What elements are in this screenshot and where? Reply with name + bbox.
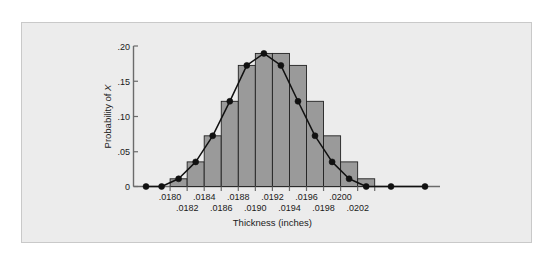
x-tick-label-4: .0188 xyxy=(227,192,250,202)
x-axis-title: Thickness (inches) xyxy=(233,217,312,228)
x-tick-label-3: .0186 xyxy=(210,203,233,213)
y-tick-label-2: .10 xyxy=(117,112,130,122)
y-tick-label-4: .20 xyxy=(117,42,130,52)
y-axis-title-variable: X xyxy=(102,84,113,92)
x-tick-label-1: .0182 xyxy=(176,203,199,213)
table-row xyxy=(187,162,204,187)
x-tick-label-10: .0200 xyxy=(329,192,352,202)
y-tick-label-3: .15 xyxy=(117,77,130,87)
y-tick-label-0: 0 xyxy=(125,182,130,192)
y-tick-label-1: .05 xyxy=(117,147,130,157)
figure-container: .20 .15 .10 .05 0 Probability of X xyxy=(0,0,552,260)
x-axis-tick-labels-row2: .0182 .0186 .0190 .0194 .0198 .0202 xyxy=(176,203,369,213)
table-row xyxy=(341,162,358,187)
x-tick-label-7: .0194 xyxy=(278,203,301,213)
table-row xyxy=(238,65,255,186)
x-tick-label-9: .0198 xyxy=(312,203,335,213)
x-tick-label-0: .0180 xyxy=(159,192,182,202)
y-axis-tick-labels: .20 .15 .10 .05 0 xyxy=(117,42,130,193)
histogram-bars xyxy=(170,53,375,186)
chart-plot-area: .20 .15 .10 .05 0 Probability of X xyxy=(0,0,552,260)
table-row xyxy=(289,65,306,186)
table-row xyxy=(204,136,221,187)
table-row xyxy=(272,53,289,186)
y-axis-title: Probability of X xyxy=(102,84,113,149)
table-row xyxy=(255,53,272,186)
x-tick-label-2: .0184 xyxy=(193,192,216,202)
x-tick-label-6: .0192 xyxy=(261,192,284,202)
x-axis-tick-labels-row1: .0180 .0184 .0188 .0192 .0196 .0200 xyxy=(159,192,352,202)
x-tick-label-11: .0202 xyxy=(346,203,369,213)
y-axis-title-prefix: Probability of xyxy=(102,91,113,149)
x-tick-label-8: .0196 xyxy=(295,192,318,202)
x-tick-label-5: .0190 xyxy=(244,203,267,213)
svg-text:Probability of X: Probability of X xyxy=(102,84,113,149)
